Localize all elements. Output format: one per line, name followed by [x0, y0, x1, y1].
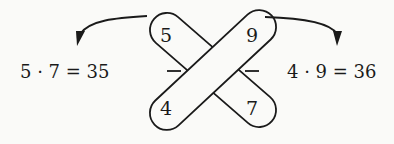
left-equation: 5 · 7 = 35 [20, 61, 110, 82]
numerator-right: 9 [246, 24, 258, 46]
right-arrow-icon [265, 17, 342, 46]
cross-multiplication-diagram: 5 9 4 7 5 · 7 = 35 4 · 9 = 36 [0, 0, 394, 144]
denominator-right: 7 [246, 97, 258, 119]
right-equation: 4 · 9 = 36 [287, 61, 377, 82]
numerator-left: 5 [160, 24, 172, 46]
denominator-left: 4 [160, 97, 172, 119]
left-arrow-icon [76, 16, 147, 46]
